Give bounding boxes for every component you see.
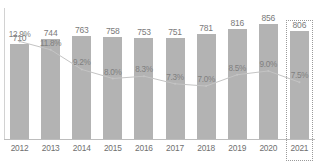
rate-value-label: 8.0% bbox=[104, 67, 121, 76]
bar-item: 816 bbox=[222, 18, 253, 139]
rate-value-label: 12.9% bbox=[9, 30, 31, 39]
rate-value-label: 7.3% bbox=[166, 72, 183, 81]
bar-rect bbox=[259, 24, 278, 139]
rate-value-label: 9.0% bbox=[260, 59, 277, 68]
x-axis-tick-label: 2012 bbox=[4, 143, 35, 159]
bar-item: 744 bbox=[35, 18, 66, 139]
bar-rect bbox=[10, 44, 29, 139]
x-axis-tick-label: 2020 bbox=[253, 143, 284, 159]
bar-rect bbox=[72, 36, 91, 139]
bar-value-label: 753 bbox=[128, 27, 159, 37]
bar-value-label: 856 bbox=[253, 13, 284, 23]
bar-value-label: 763 bbox=[66, 25, 97, 35]
rate-value-label: 11.8% bbox=[40, 38, 61, 47]
x-axis-labels: 2012201320142015201620172018201920202021 bbox=[4, 143, 315, 159]
x-axis-tick-label: 2019 bbox=[222, 143, 253, 159]
bar-value-label: 751 bbox=[159, 27, 190, 37]
bar-rect bbox=[197, 34, 216, 139]
bar-item: 763 bbox=[66, 18, 97, 139]
bar-item: 856 bbox=[253, 18, 284, 139]
rate-value-label: 8.3% bbox=[135, 65, 152, 74]
bar-rect bbox=[134, 38, 153, 139]
x-axis-baseline bbox=[4, 139, 315, 140]
bar-value-label: 781 bbox=[191, 23, 222, 33]
x-axis-tick-label: 2013 bbox=[35, 143, 66, 159]
rate-value-label: 7.0% bbox=[197, 75, 214, 84]
bar-series: 710744763758753751781816856806 bbox=[4, 18, 315, 139]
bar-rect bbox=[228, 29, 247, 139]
x-axis-tick-label: 2015 bbox=[97, 143, 128, 159]
x-axis-tick-label: 2017 bbox=[159, 143, 190, 159]
bar-value-label: 816 bbox=[222, 18, 253, 28]
x-axis-tick-label: 2016 bbox=[128, 143, 159, 159]
highlight-box-2021 bbox=[286, 20, 313, 161]
bar-rect bbox=[103, 37, 122, 139]
x-axis-tick-label: 2018 bbox=[191, 143, 222, 159]
bar-value-label: 744 bbox=[35, 28, 66, 38]
bar-item: 758 bbox=[97, 18, 128, 139]
rate-value-label: 8.5% bbox=[229, 63, 246, 72]
bar-line-combo-chart: 710744763758753751781816856806 12.9%11.8… bbox=[0, 0, 319, 165]
bar-rect bbox=[41, 39, 60, 139]
rate-value-label: 9.2% bbox=[73, 58, 90, 67]
plot-area: 710744763758753751781816856806 bbox=[4, 18, 315, 139]
x-axis-tick-label: 2014 bbox=[66, 143, 97, 159]
bar-item: 753 bbox=[128, 18, 159, 139]
bar-rect bbox=[166, 38, 185, 139]
bar-value-label: 758 bbox=[97, 26, 128, 36]
